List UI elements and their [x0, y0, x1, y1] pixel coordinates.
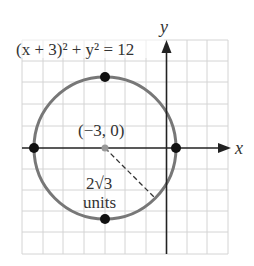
radius-label: 2√3 — [86, 174, 112, 193]
equation-label: (x + 3)² + y² = 12 — [16, 40, 134, 59]
grid — [22, 40, 228, 254]
x-axis-arrow-icon — [218, 143, 231, 153]
circle-graph: (x + 3)² + y² = 12 (−3, 0) 2√3 units x y — [0, 0, 254, 266]
left-point — [29, 143, 39, 153]
center-point — [102, 145, 109, 152]
center-label: (−3, 0) — [78, 121, 124, 140]
units-label: units — [83, 193, 116, 212]
right-point — [171, 143, 181, 153]
y-axis-label: y — [158, 17, 168, 37]
bottom-point — [100, 214, 110, 224]
x-axis-label: x — [234, 138, 243, 158]
top-point — [100, 72, 110, 82]
